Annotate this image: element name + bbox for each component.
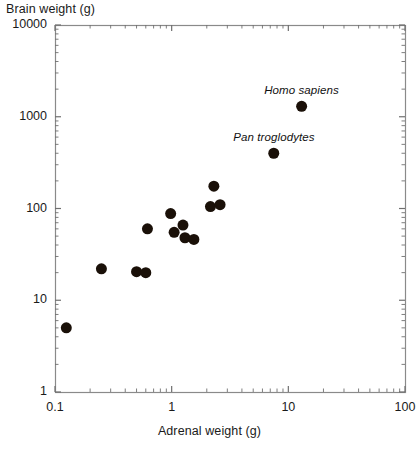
x-axis-title: Adrenal weight (g) [0,424,419,438]
data-point [188,234,199,245]
x-tick-label-2: 10 [248,400,328,414]
y-tick-label-1: 10 [0,292,47,306]
data-point [96,263,107,274]
x-tick-label-3: 100 [365,400,419,414]
data-point [177,220,188,231]
point-annotation-0: Homo sapiens [264,84,339,96]
point-annotation-1: Pan troglodytes [233,131,314,143]
data-point [61,322,72,333]
data-point [296,101,307,112]
y-tick-label-0: 1 [0,384,47,398]
data-point [142,223,153,234]
data-point [268,148,279,159]
y-tick-label-2: 100 [0,201,47,215]
data-point [165,208,176,219]
data-point [205,201,216,212]
x-tick-label-1: 1 [132,400,212,414]
plot-canvas [0,0,419,451]
scatter-plot-figure: Brain weight (g) 0.111010011010010001000… [0,0,419,451]
x-tick-label-0: 0.1 [15,400,95,414]
data-point [215,199,226,210]
y-tick-label-3: 1000 [0,109,47,123]
data-point [140,267,151,278]
plot-frame [56,26,406,393]
y-tick-label-4: 10000 [0,17,47,31]
data-point [169,227,180,238]
data-point [208,181,219,192]
